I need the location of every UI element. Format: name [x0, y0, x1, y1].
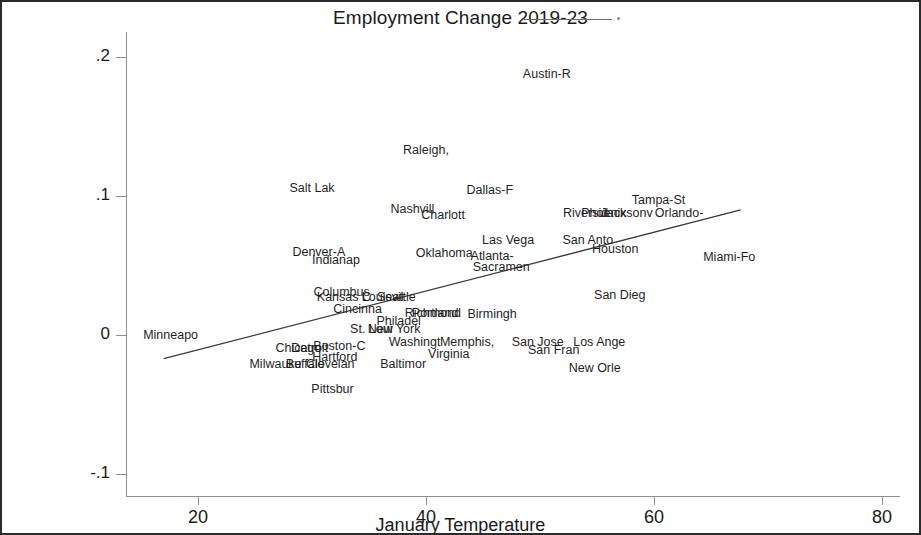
y-tick-label-text: -.1 [60, 463, 110, 483]
scatter-point-label: St. Loui [350, 323, 392, 336]
y-tick-label-text: .2 [60, 46, 110, 66]
x-tick-mark [654, 496, 655, 505]
y-tick-label: -.1 [60, 463, 110, 483]
legend-line-swatch [524, 19, 612, 20]
fit-line [2, 2, 919, 533]
scatter-point-label: Charlott [421, 209, 465, 222]
scatter-point-label: Austin-R [523, 67, 571, 80]
scatter-point-label: San Dieg [594, 288, 645, 301]
scatter-point-label: Sacramen [473, 260, 530, 273]
y-tick-label-text: 0 [60, 324, 110, 344]
y-tick-label-text: .1 [60, 185, 110, 205]
scatter-point-label: Miami-Fo [703, 251, 755, 264]
scatter-point-label: Las Vega [482, 234, 534, 247]
scatter-point-label: Minneapo [143, 329, 198, 342]
plot-area: Employment Change 2019-23 .2.10-.1 20406… [2, 2, 919, 533]
scatter-point-label: Virginia [428, 348, 469, 361]
y-tick-label: .2 [60, 46, 110, 66]
scatter-point-label: Cincinna [333, 302, 382, 315]
scatter-point-label: Salt Lak [289, 181, 334, 194]
y-tick-label: 0 [60, 324, 110, 344]
scatter-point-label: Oklahoma [416, 246, 473, 259]
scatter-point-label: Seattle [377, 291, 416, 304]
x-tick-mark [882, 496, 883, 505]
scatter-point-label: San Fran [528, 344, 579, 357]
scatter-point-label: Indianap [312, 253, 360, 266]
y-tick-mark [116, 196, 126, 197]
y-tick-mark [116, 335, 126, 336]
scatter-point-label: Houston [592, 242, 639, 255]
y-tick-mark [116, 57, 126, 58]
x-axis-title: January Temperature [2, 515, 919, 535]
scatter-point-label: Pittsbur [311, 383, 353, 396]
scatter-point-label: Clevelan [306, 358, 355, 371]
scatter-point-label: Raleigh, [403, 144, 449, 157]
chart-screenshot: Employment Change 2019-23 .2.10-.1 20406… [0, 0, 921, 535]
scatter-point-label: Jacksonv [601, 206, 653, 219]
y-tick-mark [116, 474, 126, 475]
x-tick-mark [426, 496, 427, 505]
scatter-point-label: Los Ange [573, 335, 625, 348]
y-tick-label: .1 [60, 185, 110, 205]
x-axis-line [126, 496, 900, 497]
scatter-point-label: Baltimor [380, 358, 426, 371]
y-axis-line [126, 32, 127, 497]
scatter-point-label: New Orle [569, 362, 621, 375]
x-tick-mark [198, 496, 199, 505]
legend-dot-swatch [617, 17, 620, 20]
page-title: Employment Change 2019-23 [2, 7, 919, 29]
scatter-point-label: Dallas-F [467, 184, 514, 197]
scatter-point-label: Birmingh [467, 308, 516, 321]
scatter-point-label: Orlando- [655, 206, 704, 219]
